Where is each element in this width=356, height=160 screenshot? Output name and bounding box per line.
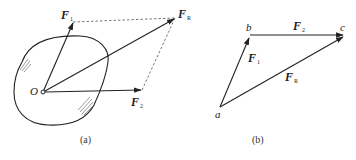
figure-b: [220, 35, 343, 107]
label-point-b: b: [246, 22, 252, 33]
label-point-a: a: [215, 109, 221, 120]
label-origin-o: O: [30, 86, 38, 97]
vector-fr-a: [45, 19, 174, 91]
label-point-c: c: [340, 22, 345, 33]
dashed-line-f1-to-fr: [73, 18, 175, 22]
figure-a: [14, 18, 175, 125]
vector-f2-a: [45, 90, 141, 92]
dashed-line-f2-to-fr: [142, 18, 175, 90]
vector-f1-a: [43, 23, 73, 92]
label-f1-a: F1: [61, 9, 73, 22]
origin-point-o: [41, 90, 45, 94]
caption-b: (b): [252, 135, 264, 145]
label-f2-a: F2: [131, 96, 143, 109]
label-f2-b: F2: [293, 20, 305, 33]
body-hatch-upper: [20, 59, 31, 72]
label-fr-a: FR: [178, 8, 191, 21]
vector-f1-b: [220, 38, 249, 107]
caption-a: (a): [80, 135, 91, 145]
label-f1-b: F1: [248, 52, 260, 65]
body-hatch-lower: [78, 97, 94, 115]
vector-fr-b: [220, 37, 343, 107]
label-fr-b: FR: [285, 71, 298, 84]
